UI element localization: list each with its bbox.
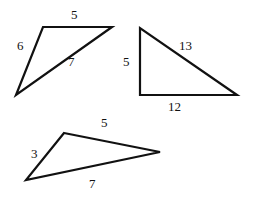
triangle-a-side-top-label: 5	[71, 7, 78, 22]
triangles-figure: 5 6 7 5 13 12 5 3 7	[0, 0, 257, 200]
triangle-a-side-diagonal-label: 7	[68, 54, 75, 69]
triangle-b-side-left-label: 5	[123, 54, 130, 69]
triangle-a-side-left-label: 6	[17, 38, 24, 53]
triangle-a: 5 6 7	[16, 7, 112, 95]
triangle-b-side-hypotenuse-label: 13	[179, 38, 192, 53]
triangle-c-side-left-label: 3	[31, 146, 38, 161]
triangle-c-side-bottom-label: 7	[89, 176, 96, 191]
triangle-c-side-top-label: 5	[101, 115, 108, 130]
triangle-a-shape	[16, 27, 112, 95]
triangle-c: 5 3 7	[26, 115, 160, 191]
triangle-b: 5 13 12	[123, 28, 237, 114]
triangle-c-shape	[26, 133, 160, 180]
triangle-b-side-bottom-label: 12	[168, 99, 181, 114]
